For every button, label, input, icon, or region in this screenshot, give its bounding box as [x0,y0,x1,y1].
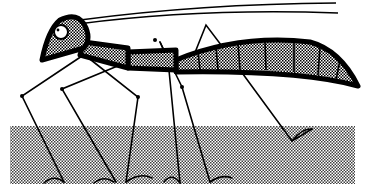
body [42,17,358,86]
thorax-rear [128,50,176,70]
illustration-canvas [0,0,365,191]
eye [54,25,68,39]
antennae [78,3,338,24]
pupil [57,29,60,32]
insect-illustration [0,0,365,191]
abdomen [176,40,358,86]
